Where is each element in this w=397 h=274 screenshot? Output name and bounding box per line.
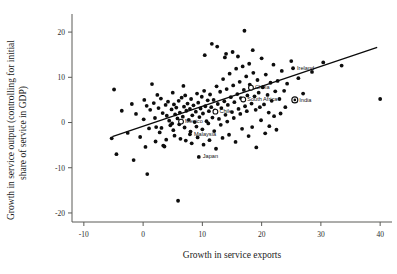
data-points-layer <box>110 29 382 203</box>
hollow-marker-icon <box>241 97 246 102</box>
data-point <box>132 158 136 162</box>
data-point <box>180 96 184 100</box>
data-point <box>263 131 267 135</box>
data-point <box>231 84 235 88</box>
data-point <box>171 91 175 95</box>
data-point <box>221 136 225 140</box>
data-point <box>160 126 164 130</box>
data-point <box>202 89 206 93</box>
annotated-point-ireland: Ireland <box>291 65 314 71</box>
data-point <box>321 60 325 64</box>
data-point <box>254 145 258 149</box>
regression-line <box>112 47 377 136</box>
y-tick-label: 10 <box>58 73 66 82</box>
data-point <box>224 52 228 56</box>
data-point <box>241 65 245 69</box>
data-point <box>206 122 210 126</box>
x-tick-label: 20 <box>258 230 266 239</box>
data-point <box>283 105 287 109</box>
data-point <box>231 50 235 54</box>
data-point <box>278 97 282 101</box>
data-point <box>182 84 186 88</box>
data-point <box>142 98 146 102</box>
data-point <box>285 82 289 86</box>
data-point <box>203 53 207 57</box>
data-point <box>200 95 204 99</box>
data-point <box>167 119 171 123</box>
data-point <box>227 133 231 137</box>
data-point <box>206 98 210 102</box>
data-point <box>240 127 244 131</box>
data-point <box>254 108 258 112</box>
y-tick-label: 0 <box>61 118 65 127</box>
data-point <box>275 128 279 132</box>
data-point <box>201 112 205 116</box>
data-point <box>272 63 276 67</box>
data-point <box>147 126 151 130</box>
x-tick-label: 40 <box>376 230 384 239</box>
data-point <box>152 101 156 105</box>
data-point <box>145 104 149 108</box>
data-point <box>186 102 190 106</box>
x-tick-label: 0 <box>141 230 145 239</box>
data-point <box>170 122 174 126</box>
data-point <box>237 107 241 111</box>
target-marker-center-icon <box>294 99 297 102</box>
data-point <box>154 125 158 129</box>
annotated-point-mexico: Mexico <box>179 118 203 124</box>
data-point <box>172 103 176 107</box>
hollow-marker-icon <box>213 109 218 114</box>
data-point <box>257 91 261 95</box>
data-point <box>174 106 178 110</box>
data-point <box>340 64 344 68</box>
point-label: Japan <box>203 153 218 159</box>
point-label: Chile <box>219 108 232 114</box>
y-tick-label: -20 <box>55 209 65 218</box>
data-point <box>251 71 255 75</box>
x-tick-label: -10 <box>79 230 89 239</box>
data-point <box>244 75 248 79</box>
data-point <box>215 84 219 88</box>
annotated-point-china: China <box>249 84 271 90</box>
data-point <box>155 93 159 97</box>
annotated-point-india: India <box>292 97 313 103</box>
data-point <box>217 117 221 121</box>
point-label: Ireland <box>297 65 314 71</box>
scatter-plot-figure: Growth in service output (controlling fo… <box>0 0 397 274</box>
filled-marker-icon <box>197 155 201 159</box>
data-point <box>272 114 276 118</box>
point-label: China <box>255 84 271 90</box>
data-point <box>142 117 146 121</box>
y-axis-title-line1: Growth in service output (controlling fo… <box>6 40 17 220</box>
data-point <box>148 108 152 112</box>
point-label: Mexico <box>185 118 203 124</box>
data-point <box>183 126 187 130</box>
data-point <box>192 103 196 107</box>
data-point <box>177 99 181 103</box>
data-point <box>238 80 242 84</box>
data-point <box>208 138 212 142</box>
data-point <box>250 125 254 129</box>
data-point <box>228 72 232 76</box>
filled-marker-icon <box>188 132 192 136</box>
data-point <box>190 141 194 145</box>
data-point <box>225 87 229 91</box>
x-tick-label: 30 <box>317 230 325 239</box>
point-label: India <box>299 97 312 103</box>
data-point <box>256 78 260 82</box>
data-point <box>195 125 199 129</box>
plot-canvas: Growth in service output (controlling fo… <box>0 0 397 274</box>
data-point <box>184 139 188 143</box>
data-point <box>189 97 193 101</box>
data-point <box>183 93 187 97</box>
data-point <box>166 100 170 104</box>
y-tick-label: 20 <box>58 28 66 37</box>
data-point <box>301 92 305 96</box>
data-point <box>221 77 225 81</box>
data-point <box>234 67 238 71</box>
data-point <box>195 92 199 96</box>
data-point <box>202 143 206 147</box>
x-axis-ticks: -10010203040 <box>79 222 384 239</box>
data-point <box>262 103 266 107</box>
data-point <box>120 109 124 113</box>
